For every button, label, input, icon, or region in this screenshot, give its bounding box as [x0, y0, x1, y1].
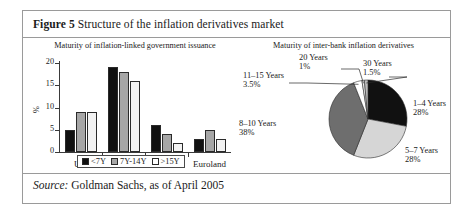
y-tick-label: 0 [50, 146, 54, 155]
y-tick-label: 15 [46, 79, 54, 88]
y-tick-mark [55, 130, 59, 131]
title-divider [23, 37, 450, 38]
bar [119, 72, 129, 152]
pie-chart-panel: Maturity of inter-bank inflation derivat… [237, 41, 450, 171]
pie-slice-name: 20 Years [299, 53, 328, 62]
bar [76, 112, 86, 152]
figure-caption: Figure 5 Structure of the inflation deri… [33, 18, 284, 30]
pie-slice-label: 20 Years1% [299, 53, 328, 72]
figure-caption-text: Structure of the inflation derivatives m… [78, 18, 284, 30]
x-category-label: Euroland [188, 159, 231, 169]
figure-number: Figure 5 [33, 18, 75, 30]
legend-swatch [111, 158, 118, 165]
pie-leader-line [289, 83, 359, 84]
legend-entry: >15Y [152, 157, 180, 166]
bar-chart-legend: <7Y7Y-14Y>15Y [77, 155, 185, 168]
bar [216, 139, 226, 152]
pie-slice-value: 1.5% [363, 68, 392, 77]
source-note: Source: Goldman Sachs, as of April 2005 [33, 179, 224, 191]
pie-slice-value: 28% [405, 155, 438, 164]
pie-slice-value: 3.5% [243, 80, 284, 89]
bar [194, 139, 204, 152]
pie-slice-label: 30 Years1.5% [363, 59, 392, 78]
pie-slice-label: 1–4 Years28% [413, 99, 446, 118]
source-label: Source: [33, 179, 68, 191]
legend-label: >15Y [161, 157, 180, 166]
pie-slice-name: 1–4 Years [413, 99, 446, 108]
bar-chart-plot-area: % 05101520 UKUSFranceEuroland [59, 61, 231, 153]
pie-slice-name: 30 Years [363, 59, 392, 68]
legend-swatch [82, 158, 89, 165]
y-axis-label: % [32, 106, 41, 113]
pie-slice-label: 5–7 Years28% [405, 146, 438, 165]
pie-slice-value: 1% [299, 62, 328, 71]
bar [173, 143, 183, 152]
legend-swatch [152, 158, 159, 165]
y-tick-label: 5 [50, 124, 54, 133]
y-tick-mark [55, 108, 59, 109]
bar [130, 81, 140, 152]
y-tick-mark [55, 63, 59, 64]
figure-container: Figure 5 Structure of the inflation deri… [22, 10, 451, 204]
source-text: Goldman Sachs, as of April 2005 [71, 179, 224, 191]
pie-slice-name: 8–10 Years [239, 119, 276, 128]
legend-entry: 7Y-14Y [111, 157, 147, 166]
pie-slice-label: 11–15 Years3.5% [243, 71, 284, 90]
pie-slice-label: 8–10 Years38% [239, 119, 276, 138]
y-tick-mark [55, 85, 59, 86]
legend-label: 7Y-14Y [120, 157, 147, 166]
bar [87, 112, 97, 152]
bar-chart-title: Maturity of inflation-linked government … [29, 41, 241, 50]
bar-chart-panel: Maturity of inflation-linked government … [29, 41, 241, 171]
pie-slice-name: 5–7 Years [405, 146, 438, 155]
pie-slice-value: 38% [239, 128, 276, 137]
source-divider [23, 173, 450, 174]
pie-slice-value: 28% [413, 108, 446, 117]
legend-label: <7Y [91, 157, 106, 166]
y-tick-label: 10 [46, 102, 54, 111]
bar [108, 67, 118, 152]
bar [205, 130, 215, 152]
bar [151, 125, 161, 152]
bar [65, 130, 75, 152]
y-tick-label: 20 [46, 57, 54, 66]
y-tick-mark [55, 152, 59, 153]
pie-slice [368, 80, 407, 126]
x-tick-mark [188, 153, 189, 157]
bar [162, 134, 172, 152]
pie-slice-name: 11–15 Years [243, 71, 284, 80]
legend-entry: <7Y [82, 157, 106, 166]
y-axis-line [59, 61, 60, 153]
